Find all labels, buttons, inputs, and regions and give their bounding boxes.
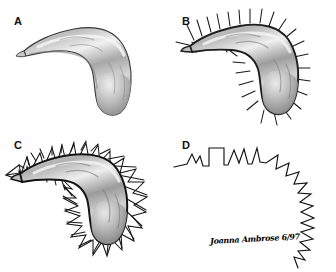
envelope-outline-d xyxy=(174,148,314,268)
panel-a: A xyxy=(0,0,168,136)
organism-illustration-a xyxy=(0,0,168,136)
organism-illustration-b xyxy=(168,0,336,136)
anterior-tip-a xyxy=(16,51,26,57)
anterior-tip-c xyxy=(11,174,22,182)
envelope-illustration-d xyxy=(168,136,336,272)
panel-d: D Joanna Ambrose 6/97 xyxy=(168,136,336,272)
body-group-a xyxy=(16,28,131,116)
panel-b: B xyxy=(168,0,336,136)
body-group-b xyxy=(181,25,298,115)
figure-plate: A xyxy=(0,0,336,272)
organism-illustration-c xyxy=(0,136,168,272)
anterior-tip-b xyxy=(181,46,192,52)
panel-c: C xyxy=(0,136,168,272)
